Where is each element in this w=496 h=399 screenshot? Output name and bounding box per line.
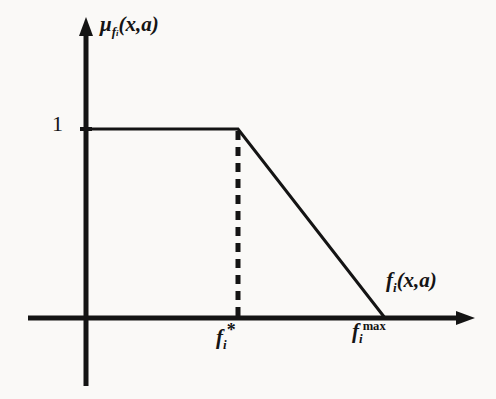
tick-fmax-subscript: i [359,331,363,346]
y-axis-arrowhead-icon [79,17,93,36]
tick-fmax-superscript: max [363,319,386,333]
x-axis-label: fi(x,a) [386,270,437,294]
x-axis [28,311,475,325]
x-axis-label-argument: (x,a) [397,268,437,292]
tick-fstar-superscript: * [227,320,236,340]
y-axis-label-mu: μ [100,12,112,36]
x-axis-arrowhead-icon [456,311,475,325]
y-axis-label-argument: (x,a) [118,12,158,36]
y-axis-tick-label-one: 1 [52,113,63,135]
x-axis-label-f: f [386,268,393,292]
tick-fstar-base: f [216,325,223,349]
y-axis [79,17,93,386]
figure-canvas: 1 μfi(x,a) fi(x,a) fi* fimax [0,0,496,399]
plot-graphic [0,0,496,399]
tick-fmax-base: f [352,319,359,343]
membership-function-curve [86,129,385,318]
y-axis-label: μfi(x,a) [100,14,159,38]
x-axis-tick-label-f-star: fi* [216,322,236,351]
x-axis-tick-label-f-max: fimax [352,320,386,345]
